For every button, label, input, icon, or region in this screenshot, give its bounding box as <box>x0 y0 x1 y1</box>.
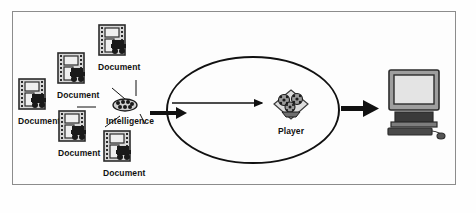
document-icon <box>58 110 88 144</box>
node-player[interactable]: Player <box>272 88 310 136</box>
document-label: Document <box>103 168 145 178</box>
document-icon <box>18 78 48 112</box>
node-document-1[interactable]: Document <box>18 78 60 126</box>
intelligence-cluster-icon <box>112 98 138 112</box>
document-label: Document <box>98 62 140 72</box>
desktop-computer-icon <box>385 68 447 140</box>
node-intelligence[interactable]: Intelligence <box>112 98 154 126</box>
player-label: Player <box>272 126 310 136</box>
document-icon <box>103 130 133 164</box>
node-document-3[interactable]: Document <box>98 24 140 72</box>
document-label: Document <box>58 148 100 158</box>
player-group-icon <box>272 88 310 122</box>
node-document-5[interactable]: Document <box>103 130 145 178</box>
node-computer[interactable] <box>385 68 447 144</box>
intelligence-label: Intelligence <box>106 116 154 126</box>
document-icon <box>98 24 128 58</box>
document-label: Document <box>57 90 99 100</box>
node-document-4[interactable]: Document <box>58 110 100 158</box>
diagram-canvas: Document Document <box>0 0 476 213</box>
document-icon <box>57 52 87 86</box>
document-label: Document <box>18 116 60 126</box>
node-document-2[interactable]: Document <box>57 52 99 100</box>
